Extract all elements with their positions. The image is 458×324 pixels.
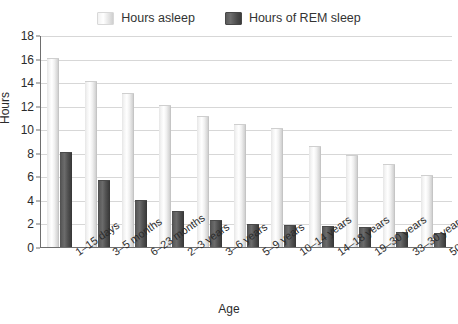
bar-group bbox=[116, 36, 153, 247]
bar-hours-asleep bbox=[122, 93, 134, 247]
y-axis-tick-label: 16 bbox=[21, 53, 34, 67]
x-axis-tick-label: 50 + bbox=[447, 248, 454, 258]
legend-label-hours-of-rem-sleep: Hours of REM sleep bbox=[249, 11, 361, 25]
chart-legend: Hours asleep Hours of REM sleep bbox=[0, 8, 458, 28]
x-axis-tick-label: 33–30 years bbox=[410, 248, 417, 258]
y-axis-tick-label: 8 bbox=[27, 147, 34, 161]
legend-item-hours-of-rem-sleep: Hours of REM sleep bbox=[225, 11, 361, 25]
x-axis-tick-label: 6–23 months bbox=[148, 248, 155, 258]
plot-area bbox=[40, 36, 452, 248]
y-axis-tick-label: 2 bbox=[27, 217, 34, 231]
y-axis-tick-label: 18 bbox=[21, 29, 34, 43]
bar-group bbox=[228, 36, 265, 247]
x-axis-tick-label: 5–9 years bbox=[260, 248, 267, 258]
bar-group bbox=[303, 36, 340, 247]
legend-label-hours-asleep: Hours asleep bbox=[121, 11, 195, 25]
legend-item-hours-asleep: Hours asleep bbox=[97, 11, 195, 25]
legend-swatch-hours-of-rem-sleep bbox=[225, 12, 242, 25]
bar-hours-asleep bbox=[234, 124, 246, 247]
x-axis-tick-label: 3–6 years bbox=[223, 248, 230, 258]
x-axis-labels: 1–15 days3–5 months6–23 months2–3 years3… bbox=[40, 248, 452, 298]
x-axis-tick-label: 1–15 days bbox=[73, 248, 80, 258]
x-axis-tick-label: 10–14 years bbox=[297, 248, 304, 258]
legend-swatch-hours-asleep bbox=[97, 12, 114, 25]
x-axis-title: Age bbox=[0, 302, 458, 316]
y-axis-tick-label: 10 bbox=[21, 123, 34, 137]
bar-group bbox=[78, 36, 115, 247]
y-axis-tick-label: 0 bbox=[27, 241, 34, 255]
bar-hours-asleep bbox=[85, 81, 97, 247]
bar-hours-asleep bbox=[47, 58, 59, 247]
y-axis-tick-label: 14 bbox=[21, 76, 34, 90]
bar-hours-asleep bbox=[197, 116, 209, 247]
bars-layer bbox=[41, 36, 452, 247]
y-axis-tick-label: 4 bbox=[27, 194, 34, 208]
y-axis-ticks: 181614121086420 bbox=[0, 36, 40, 248]
bar-group bbox=[153, 36, 190, 247]
sleep-hours-bar-chart: Hours asleep Hours of REM sleep 18161412… bbox=[0, 0, 458, 324]
y-axis-tick-label: 12 bbox=[21, 100, 34, 114]
y-axis-title: Hours bbox=[0, 92, 12, 124]
bar-group bbox=[41, 36, 78, 247]
y-axis-tick-label: 6 bbox=[27, 170, 34, 184]
bar-group bbox=[265, 36, 302, 247]
x-axis-tick-label: 2–3 years bbox=[185, 248, 192, 258]
x-axis-tick-label: 3–5 months bbox=[110, 248, 117, 258]
x-axis-tick-label: 19–30 years bbox=[372, 248, 379, 258]
x-axis-tick-label: 14–18 years bbox=[335, 248, 342, 258]
bar-hours-of-rem-sleep bbox=[60, 152, 72, 247]
bar-hours-asleep bbox=[271, 128, 283, 247]
